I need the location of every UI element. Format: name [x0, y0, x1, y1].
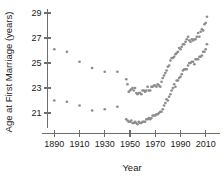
data-point [203, 50, 206, 53]
data-point [165, 69, 168, 72]
data-point [180, 45, 183, 48]
data-point [194, 38, 197, 41]
data-point [131, 87, 134, 90]
data-point [177, 79, 180, 82]
data-point [180, 73, 183, 76]
y-tick-label: 25 [31, 58, 41, 68]
data-point [164, 102, 167, 105]
x-tick-label: 1890 [44, 139, 64, 149]
data-point [163, 74, 166, 77]
data-point [78, 60, 81, 63]
data-point [136, 123, 139, 126]
data-point [172, 87, 175, 90]
data-point [173, 83, 176, 86]
data-point [174, 85, 177, 88]
data-point [130, 119, 133, 122]
data-point [66, 100, 69, 103]
data-point [161, 108, 164, 111]
data-point [91, 109, 94, 112]
data-point [146, 85, 149, 88]
data-point [184, 40, 187, 43]
data-point [149, 89, 152, 92]
data-point [187, 64, 190, 67]
data-point [193, 63, 196, 66]
data-point [177, 50, 180, 53]
data-point [170, 89, 173, 92]
data-point [173, 55, 176, 58]
x-tick-label: 1970 [145, 139, 165, 149]
data-point [204, 22, 207, 25]
data-point [164, 72, 167, 75]
data-point [198, 35, 201, 38]
data-point [145, 89, 148, 92]
data-point [132, 89, 135, 92]
data-point [150, 117, 153, 120]
y-tick-label: 21 [31, 108, 41, 118]
y-tick-label: 29 [31, 8, 41, 18]
data-points [53, 15, 208, 125]
data-point [91, 67, 94, 70]
data-point [206, 43, 209, 46]
x-tick-label: 1930 [95, 139, 115, 149]
data-point [197, 32, 200, 35]
data-point [116, 105, 119, 108]
data-point [66, 50, 69, 53]
data-point [78, 104, 81, 107]
data-point [187, 35, 190, 38]
data-point [199, 30, 202, 33]
x-axis-title: Year [122, 162, 141, 173]
data-point [159, 85, 162, 88]
data-point [196, 35, 199, 38]
x-tick-label: 1910 [70, 139, 90, 149]
data-point [168, 95, 171, 98]
data-point [197, 58, 200, 61]
data-point [183, 43, 186, 46]
data-point [169, 59, 172, 62]
data-point [160, 80, 163, 83]
data-point [103, 108, 106, 111]
data-point [134, 87, 137, 90]
data-point [179, 48, 182, 51]
x-tick-label: 1990 [170, 139, 190, 149]
data-point [192, 60, 195, 63]
data-point [204, 48, 207, 51]
data-point [185, 68, 188, 71]
data-point [185, 38, 188, 41]
data-point [155, 85, 158, 88]
data-point [144, 120, 147, 123]
age-at-first-marriage-scatter-chart: 2123252729 1890191019301950197019902010 … [0, 0, 224, 176]
data-point [160, 110, 163, 113]
x-axis: 1890191019301950197019902010 [42, 130, 220, 149]
x-tick-label: 1950 [120, 139, 140, 149]
chart-container: 2123252729 1890191019301950197019902010 … [0, 0, 224, 176]
data-point [163, 104, 166, 107]
data-point [201, 54, 204, 57]
data-point [103, 70, 106, 73]
data-point [189, 40, 192, 43]
data-point [125, 78, 128, 81]
data-point [169, 93, 172, 96]
data-point [126, 83, 129, 86]
y-axis-title: Age at First Marriage (years) [3, 12, 14, 133]
data-point [116, 70, 119, 73]
x-tick-label: 2010 [196, 139, 216, 149]
data-point [53, 48, 56, 51]
y-tick-label: 23 [31, 83, 41, 93]
data-point [168, 64, 171, 67]
data-point [202, 29, 205, 32]
y-axis: 2123252729 [31, 8, 51, 128]
data-point [161, 77, 164, 80]
series-women [53, 43, 208, 126]
data-point [53, 99, 56, 102]
data-point [167, 99, 170, 102]
series-men [53, 15, 208, 95]
data-point [179, 75, 182, 78]
data-point [206, 15, 209, 18]
y-tick-label: 27 [31, 33, 41, 43]
data-point [140, 93, 143, 96]
